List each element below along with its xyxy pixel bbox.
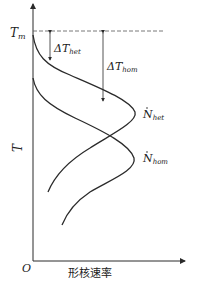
curve-het xyxy=(33,35,135,192)
n-hom-dot xyxy=(146,151,148,153)
y-axis-label: T xyxy=(11,143,25,152)
nucleation-rate-diagram: Tm ΔThet ΔThom Nhet Nhom T O 形核速率 xyxy=(0,0,197,289)
delta-hom-label: ΔThom xyxy=(106,60,138,74)
x-axis-label: 形核速率 xyxy=(68,266,112,280)
delta-het-label: ΔThet xyxy=(53,42,81,56)
n-het-dot xyxy=(146,107,148,109)
tm-label: Tm xyxy=(10,26,26,41)
origin-label: O xyxy=(22,262,31,275)
n-het-label: Nhet xyxy=(142,108,164,122)
n-hom-label: Nhom xyxy=(142,152,168,166)
